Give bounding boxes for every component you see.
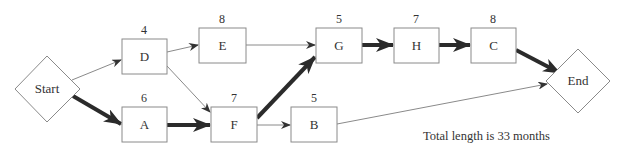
task-d-duration: 4 bbox=[141, 23, 147, 37]
task-h-duration: 7 bbox=[413, 12, 419, 26]
task-h: 7 H bbox=[394, 12, 439, 63]
start-node: Start bbox=[15, 56, 80, 122]
edge-d-e bbox=[167, 45, 198, 52]
edge-start-d bbox=[72, 60, 121, 80]
task-a-label: A bbox=[140, 117, 150, 132]
edge-d-f bbox=[167, 66, 210, 112]
task-e-label: E bbox=[219, 38, 227, 53]
task-d: 4 D bbox=[122, 23, 167, 74]
task-g-duration: 5 bbox=[336, 12, 342, 26]
critical-path-diagram: Start End 4 D 8 E 6 A 7 F 5 B 5 G bbox=[0, 0, 625, 151]
task-d-label: D bbox=[140, 49, 149, 64]
task-c-duration: 8 bbox=[490, 12, 496, 26]
task-b-label: B bbox=[310, 117, 319, 132]
task-e-duration: 8 bbox=[219, 12, 225, 26]
task-g-label: G bbox=[334, 38, 343, 53]
task-c-label: C bbox=[489, 38, 498, 53]
edge-c-end bbox=[516, 50, 560, 73]
task-b-duration: 5 bbox=[311, 91, 317, 105]
task-f-label: F bbox=[230, 117, 237, 132]
task-h-label: H bbox=[412, 38, 421, 53]
task-a-duration: 6 bbox=[141, 91, 147, 105]
task-b: 5 B bbox=[291, 91, 337, 142]
task-g: 5 G bbox=[316, 12, 362, 63]
edge-start-a bbox=[73, 96, 121, 124]
start-label: Start bbox=[35, 81, 60, 96]
total-length-note: Total length is 33 months bbox=[423, 129, 550, 143]
task-a: 6 A bbox=[122, 91, 167, 142]
task-e: 8 E bbox=[199, 12, 246, 63]
task-c: 8 C bbox=[471, 12, 516, 63]
task-f: 7 F bbox=[211, 91, 257, 142]
end-label: End bbox=[568, 73, 589, 88]
end-node: End bbox=[546, 49, 610, 113]
edge-b-end bbox=[337, 84, 547, 124]
task-f-duration: 7 bbox=[231, 91, 237, 105]
